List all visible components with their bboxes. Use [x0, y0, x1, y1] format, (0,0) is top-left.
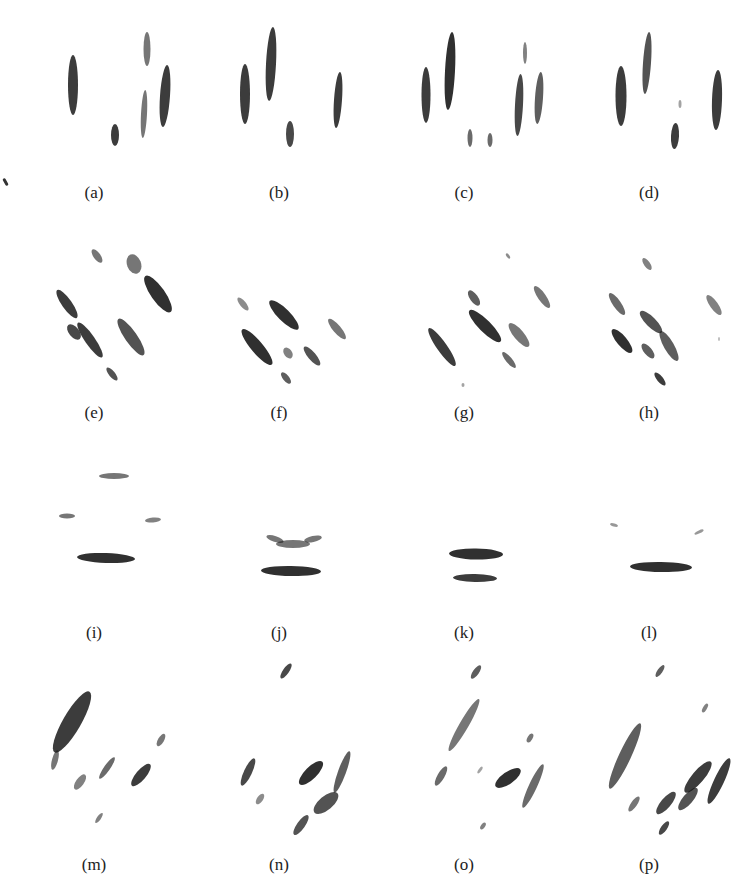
blob-shape [704, 293, 724, 317]
panel-caption: (o) [372, 855, 556, 875]
panel-caption: (g) [372, 403, 556, 423]
blob-pattern-image [0, 442, 184, 622]
blob-shape [158, 65, 172, 128]
blob-shape [604, 721, 645, 791]
blob-shape [99, 473, 129, 479]
panel-caption: (b) [187, 183, 371, 203]
blob-pattern-image [185, 0, 369, 180]
panel-caption: (c) [372, 183, 556, 203]
blob-shape [639, 342, 657, 361]
panel-caption: (j) [187, 623, 371, 643]
blob-shape [505, 253, 511, 260]
blob-shape [97, 756, 117, 781]
blob-pattern-image [555, 222, 738, 402]
blob-shape [479, 822, 487, 831]
blob-shape [68, 55, 78, 115]
blob-pattern-image [555, 665, 738, 845]
blob-shape [630, 561, 692, 572]
blob-shape [488, 133, 493, 147]
panel-caption: (f) [187, 403, 371, 423]
blob-pattern-image [185, 222, 369, 402]
blob-shape [140, 272, 177, 316]
blob-shape [525, 732, 534, 743]
blob-shape [641, 257, 654, 272]
blob-shape [465, 306, 505, 346]
blob-shape [500, 350, 517, 369]
blob-shape [462, 383, 465, 387]
blob-shape [425, 325, 460, 368]
blob-shape [331, 750, 354, 794]
blob-shape [128, 761, 154, 789]
blob-shape [606, 291, 627, 317]
blob-pattern-image [370, 222, 554, 402]
blob-shape [445, 697, 483, 753]
blob-pattern-image [0, 0, 184, 180]
blob-shape [155, 732, 167, 747]
blob-shape [291, 813, 311, 837]
blob-shape [281, 346, 294, 360]
panel-caption: (p) [557, 855, 738, 875]
blob-shape [310, 788, 342, 818]
panel-caption: (h) [557, 403, 738, 423]
blob-shape [59, 514, 75, 519]
blob-shape [670, 123, 679, 149]
blob-shape [443, 32, 457, 110]
panel-caption: (k) [372, 623, 556, 643]
panel-caption: (d) [557, 183, 738, 203]
blob-shape [74, 320, 106, 360]
panel-caption: (m) [2, 855, 186, 875]
blob-shape [326, 316, 349, 341]
blob-shape [50, 750, 61, 771]
blob-pattern-image [185, 442, 369, 622]
panel-caption: (i) [2, 623, 186, 643]
blob-shape [264, 27, 278, 101]
blob-shape [111, 124, 119, 146]
blob-pattern-image [0, 222, 184, 402]
blob-shape [254, 792, 266, 805]
blob-shape [332, 72, 344, 128]
blob-shape [469, 664, 483, 681]
blob-shape [278, 662, 293, 680]
blob-pattern-image [370, 0, 554, 180]
blob-shape [533, 72, 545, 124]
blob-shape [72, 772, 89, 791]
blob-shape [694, 529, 704, 536]
blob-shape [105, 366, 120, 382]
blob-shape [453, 574, 497, 583]
blob-shape [492, 764, 523, 791]
blob-shape [506, 320, 533, 349]
blob-shape [513, 74, 524, 136]
blob-shape [468, 129, 473, 147]
blob-shape [422, 67, 431, 123]
blob-shape [653, 789, 679, 817]
blob-shape [279, 371, 293, 386]
blob-pattern-image [0, 665, 184, 845]
blob-pattern-image [555, 0, 738, 180]
blob-shape [531, 284, 552, 310]
blob-pattern-image [185, 665, 369, 845]
blob-shape [432, 765, 449, 788]
blob-shape [656, 329, 682, 363]
blob-shape [653, 371, 668, 387]
blob-shape [641, 32, 653, 94]
blob-shape [519, 763, 547, 810]
blob-pattern-image [370, 442, 554, 622]
blob-shape [77, 552, 135, 564]
blob-shape [476, 766, 483, 774]
blob-shape [90, 247, 105, 264]
panel-caption: (l) [557, 623, 738, 643]
blob-shape [657, 820, 671, 837]
blob-shape [701, 703, 709, 714]
blob-shape [610, 523, 619, 528]
blob-shape [238, 757, 258, 788]
blob-shape [523, 42, 527, 64]
panel-caption: (n) [187, 855, 371, 875]
blob-shape [124, 252, 144, 276]
blob-shape [679, 100, 682, 108]
blob-pattern-image [555, 442, 738, 622]
blob-shape [449, 548, 503, 560]
blob-shape [466, 288, 483, 307]
blob-shape [240, 64, 250, 124]
blob-shape [718, 337, 720, 341]
blob-shape [266, 297, 303, 334]
